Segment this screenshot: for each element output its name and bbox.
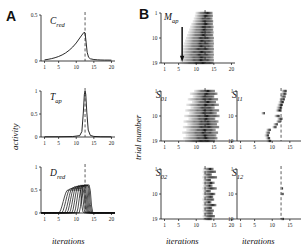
svg-text:5: 5 [177, 144, 180, 150]
svg-text:10: 10 [270, 144, 276, 150]
plot-c-red: 1510152000.5 [28, 10, 121, 73]
plot-d-red: 1510152000.51 [28, 162, 121, 225]
svg-text:19: 19 [228, 138, 234, 144]
figure-root: A B activity trial number 1510152000.5 1… [0, 0, 301, 252]
svg-text:1: 1 [163, 66, 166, 72]
svg-text:5: 5 [253, 144, 256, 150]
svg-text:1: 1 [43, 140, 46, 146]
label-c-red-sub: red [56, 21, 64, 28]
svg-text:15: 15 [91, 64, 97, 70]
svg-text:0.5: 0.5 [31, 187, 38, 193]
svg-text:0.5: 0.5 [31, 111, 38, 117]
svg-text:1: 1 [163, 222, 166, 228]
label-t-ap-sub: ap [55, 97, 62, 104]
svg-text:15: 15 [91, 216, 97, 222]
svg-text:1: 1 [43, 64, 46, 70]
svg-text:19: 19 [152, 216, 158, 222]
svg-text:20: 20 [109, 140, 115, 146]
svg-text:5: 5 [57, 140, 60, 146]
svg-text:0.5: 0.5 [31, 12, 38, 18]
svg-text:15: 15 [287, 144, 293, 150]
svg-text:10: 10 [194, 144, 200, 150]
svg-text:20: 20 [109, 216, 115, 222]
label-d-red-sub: red [57, 173, 65, 180]
svg-text:10: 10 [152, 35, 158, 41]
x-axis-label-b-right: iterations [242, 236, 275, 246]
svg-text:10: 10 [194, 222, 200, 228]
svg-text:10: 10 [74, 216, 80, 222]
svg-text:5: 5 [177, 222, 180, 228]
svg-text:5: 5 [253, 222, 256, 228]
label-s-01: S01 [156, 90, 167, 102]
label-s-12-sub: 12 [237, 173, 244, 180]
svg-text:10: 10 [228, 191, 234, 197]
svg-text:10: 10 [228, 113, 234, 119]
label-s-11: S11 [232, 90, 243, 102]
raster-m-ap: 1510152011019 [148, 8, 241, 75]
label-m-ap-base: M [164, 12, 172, 22]
label-d-red-base: D [50, 168, 57, 178]
svg-text:15: 15 [287, 222, 293, 228]
label-s-02: S02 [156, 168, 167, 180]
svg-text:15: 15 [211, 222, 217, 228]
label-s-11-sub: 11 [237, 95, 243, 102]
label-d-red: Dred [50, 168, 65, 180]
svg-text:0: 0 [35, 210, 38, 216]
svg-text:0: 0 [35, 134, 38, 140]
svg-text:10: 10 [74, 140, 80, 146]
label-s-02-sub: 02 [161, 173, 168, 180]
svg-text:15: 15 [211, 144, 217, 150]
svg-text:1: 1 [239, 222, 242, 228]
y-axis-label-activity: activity [10, 124, 20, 151]
svg-text:1: 1 [43, 216, 46, 222]
svg-text:0: 0 [35, 58, 38, 64]
svg-text:19: 19 [228, 216, 234, 222]
panel-letter-a: A [6, 8, 16, 24]
plot-t-ap: 1510152000.51 [28, 86, 121, 149]
svg-text:10: 10 [74, 64, 80, 70]
label-m-ap: Map [164, 12, 178, 24]
svg-text:5: 5 [177, 66, 180, 72]
label-s-12: S12 [232, 168, 243, 180]
svg-text:19: 19 [152, 138, 158, 144]
svg-text:1: 1 [35, 164, 38, 170]
label-c-red: Cred [50, 16, 65, 28]
svg-text:15: 15 [211, 66, 217, 72]
svg-text:10: 10 [152, 113, 158, 119]
svg-text:20: 20 [109, 64, 115, 70]
svg-text:20: 20 [229, 66, 235, 72]
svg-text:5: 5 [57, 64, 60, 70]
svg-text:5: 5 [57, 216, 60, 222]
svg-text:10: 10 [152, 191, 158, 197]
label-m-ap-sub: ap [172, 17, 179, 24]
label-s-01-sub: 01 [161, 95, 168, 102]
svg-text:19: 19 [152, 60, 158, 66]
svg-text:1: 1 [163, 144, 166, 150]
x-axis-label-a: iterations [52, 236, 85, 246]
label-t-ap: Tap [50, 92, 62, 104]
x-axis-label-b-left: iterations [166, 236, 199, 246]
svg-text:10: 10 [270, 222, 276, 228]
svg-text:10: 10 [194, 66, 200, 72]
svg-text:1: 1 [239, 144, 242, 150]
svg-text:15: 15 [91, 140, 97, 146]
y-axis-label-trial-number: trial number [133, 115, 143, 160]
svg-text:1: 1 [35, 88, 38, 94]
svg-text:1: 1 [155, 10, 158, 16]
